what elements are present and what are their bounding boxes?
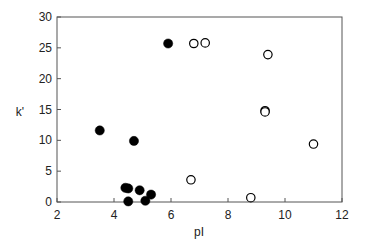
filled-data-point [135,186,144,195]
filled-data-point [124,197,133,206]
y-tick-label: 5 [45,164,52,178]
scatter-chart: 24681012 051015202530 pI k' [0,0,365,249]
plot-frame [57,17,342,202]
x-axis-label: pI [194,225,204,239]
open-data-point [201,39,209,47]
data-points [95,39,318,206]
x-tick-label: 2 [54,208,61,222]
filled-data-point [124,184,133,193]
y-tick-label: 15 [39,103,53,117]
y-tick-label: 0 [45,195,52,209]
x-tick-label: 8 [225,208,232,222]
open-data-point [261,108,269,116]
y-axis-label: k' [16,105,24,119]
filled-data-point [146,190,155,199]
open-data-point [190,39,198,47]
filled-data-point [129,136,138,145]
x-tick-label: 4 [111,208,118,222]
open-data-point [187,176,195,184]
x-tick-label: 10 [278,208,292,222]
y-tick-label: 30 [39,10,53,24]
open-data-point [247,193,255,201]
y-tick-label: 20 [39,72,53,86]
filled-data-point [164,39,173,48]
y-tick-label: 25 [39,41,53,55]
y-axis-ticks: 051015202530 [39,10,61,209]
y-tick-label: 10 [39,133,53,147]
filled-data-point [95,126,104,135]
x-tick-label: 12 [335,208,349,222]
open-data-point [309,140,317,148]
open-data-point [264,50,272,58]
x-tick-label: 6 [168,208,175,222]
